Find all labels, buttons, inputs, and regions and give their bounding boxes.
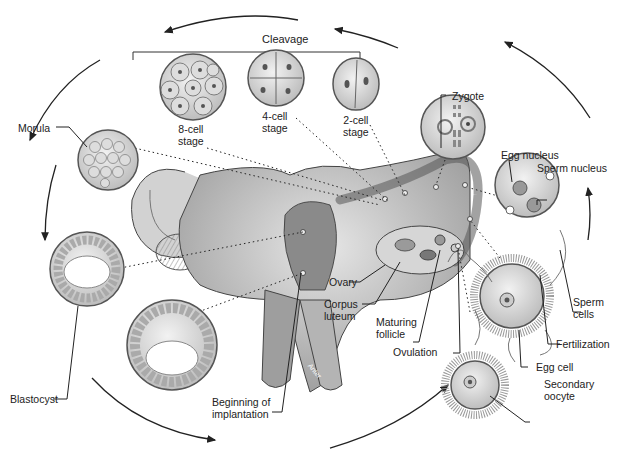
morula-label: Morula (18, 122, 50, 134)
cleavage-label: Cleavage (262, 33, 308, 45)
cleavage-bracket (133, 52, 360, 60)
arrow-top-right (335, 29, 398, 48)
two-cell-embryo (333, 58, 379, 110)
eight-cell-label: 8-cell stage (178, 123, 204, 147)
arrow-bottom-left (92, 378, 215, 440)
zygote-label: Zygote (452, 90, 484, 102)
implantation-label: Beginning of implantation (212, 396, 270, 420)
corpus-luteum-label: Corpus luteum (324, 298, 358, 322)
ovary-shape (376, 226, 464, 274)
secondary-oocyte (445, 355, 505, 415)
sperm-cells-label: Sperm cells (573, 296, 604, 320)
blastocyst (50, 232, 124, 306)
zygote (421, 95, 485, 159)
two-cell-label: 2-cell stage (343, 114, 369, 138)
eight-cell-embryo (160, 54, 226, 120)
diagram-canvas (0, 0, 620, 456)
arrow-bottom-right (330, 385, 448, 448)
four-cell-embryo (248, 50, 304, 106)
four-cell-label: 4-cell stage (262, 110, 288, 134)
ovulation-label: Ovulation (393, 346, 437, 358)
blastocyst-label: Blastocyst (10, 393, 58, 405)
egg-cell-label: Egg cell (536, 361, 573, 373)
fertilized-egg-cell (474, 258, 550, 334)
fertilization-label: Fertilization (556, 338, 610, 350)
egg-nucleus-label: Egg nucleus (501, 149, 559, 161)
arrow-right-top (505, 42, 590, 118)
ovary-label: Ovary (329, 276, 357, 288)
morula (78, 130, 138, 190)
arrow-left (45, 165, 56, 240)
fertilization-diagram: Cleavage Morula 8-cell stage 4-cell stag… (0, 0, 620, 456)
maturing-follicle-label: Maturing follicle (376, 316, 417, 340)
arrow-right (588, 188, 590, 240)
secondary-oocyte-label: Secondary oocyte (544, 378, 594, 402)
arrow-top-left (165, 16, 298, 32)
implanting-blastocyst (127, 300, 217, 390)
sperm-nucleus-label: Sperm nucleus (537, 162, 607, 174)
